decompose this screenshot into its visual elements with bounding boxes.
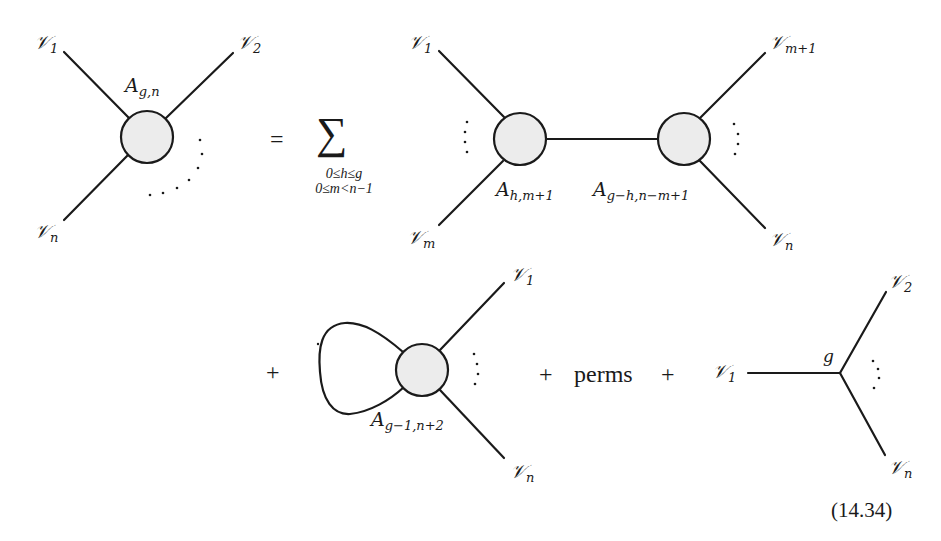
plus-sign-3: +: [661, 362, 675, 386]
sep-leg-m1-label: 𝒱m+1: [769, 33, 817, 55]
equation-number: (14.34): [831, 498, 892, 523]
sum-index-line-2: 0≤m<n−1: [296, 181, 392, 196]
base-genus-label: g: [823, 348, 834, 365]
perms-text: perms: [574, 362, 633, 386]
equals-sign: =: [270, 127, 284, 151]
sum-symbol: ∑: [316, 112, 347, 156]
lhs-vertex-label: Ag,n: [125, 76, 160, 98]
sep-right-vertex-label: Ag−h,n−m+1: [593, 180, 689, 202]
sep-left-vertex-label: Ah,m+1: [496, 180, 554, 202]
sep-leg-1-label: 𝒱1: [408, 33, 432, 55]
base-leg-2-label: 𝒱2: [888, 272, 912, 294]
sum-index: 0≤h≤g 0≤m<n−1: [296, 166, 392, 196]
lhs-leg-n-label: 𝒱n: [34, 222, 58, 244]
sep-leg-n-label: 𝒱n: [769, 230, 793, 252]
loop-leg-1-label: 𝒱1: [510, 265, 534, 287]
plus-sign-2: +: [539, 362, 553, 386]
sep-leg-m-label: 𝒱m: [407, 228, 435, 250]
base-leg-n-label: 𝒱n: [888, 458, 912, 480]
lhs-leg-1-label: 𝒱1: [34, 33, 58, 55]
loop-vertex-label: Ag−1,n+2: [371, 410, 444, 432]
sum-index-line-1: 0≤h≤g: [296, 166, 392, 181]
base-term-diagram: [748, 292, 886, 455]
base-leg-1-label: 𝒱1: [712, 362, 736, 384]
loop-leg-n-label: 𝒱n: [510, 462, 534, 484]
plus-sign-1: +: [266, 360, 280, 384]
lhs-leg-2-label: 𝒱2: [237, 33, 261, 55]
